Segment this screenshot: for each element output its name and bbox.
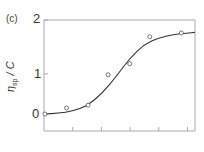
y-tick-label-1: 1 [34, 66, 41, 81]
y-label-eta: η [4, 86, 16, 92]
data-point-marker [179, 31, 183, 35]
data-points [43, 31, 183, 116]
y-tick-label-2: 2 [33, 11, 40, 26]
y-label-rest: / C [4, 61, 16, 78]
data-point-marker [86, 103, 90, 107]
y-label-sub: sp [11, 78, 18, 85]
fit-line [44, 32, 195, 114]
y-axis-label: ηsp / C [4, 61, 18, 92]
data-point-marker [148, 35, 152, 39]
fit-curve [44, 32, 195, 114]
plot-frame [44, 20, 195, 131]
data-point-marker [128, 62, 132, 66]
chart-plot [0, 0, 204, 152]
y-tick-label-0: 0 [32, 106, 39, 121]
data-point-marker [106, 73, 110, 77]
data-point-marker [65, 106, 69, 110]
data-point-marker [43, 112, 47, 116]
panel-label: (c) [6, 13, 18, 24]
